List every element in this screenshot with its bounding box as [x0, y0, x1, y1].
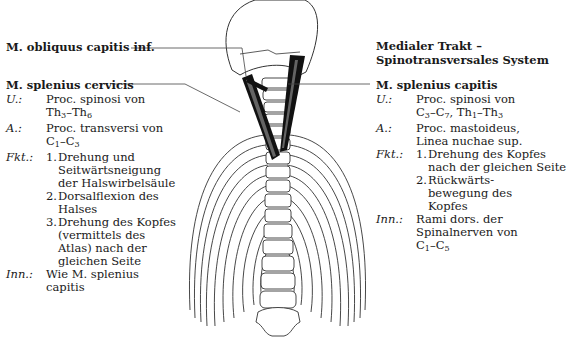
innervation-row: Inn.: Wie M. spleniuscapitis	[6, 268, 186, 294]
function-3-line: gleichen Seite	[58, 254, 141, 268]
origin-range: C3–C7, Th1–Th3	[416, 105, 503, 119]
function-row: Fkt.: 1.Drehung des Kopfesnach der gleic…	[376, 148, 551, 213]
label-splenius-cervicis: M. splenius cervicis	[6, 78, 134, 92]
origin-key: U.:	[376, 93, 416, 122]
section-header-line1: Medialer Trakt –	[376, 39, 482, 53]
function-2-number: 2.	[416, 174, 428, 213]
function-1-line: Seitwärtsneigung	[58, 163, 161, 177]
function-2-line: Kopfes	[428, 199, 468, 213]
innervation-text: Wie M. splenius	[46, 267, 139, 281]
origin-text: Proc. spinosi von	[46, 92, 145, 106]
function-key: Fkt.:	[376, 148, 416, 213]
insertion-key: A.:	[6, 122, 46, 151]
insertion-key: A.:	[376, 122, 416, 148]
function-1-number: 1.	[46, 151, 58, 190]
origin-row: U.: Proc. spinosi vonTh3–Th6	[6, 93, 186, 122]
label-obliquus-capitis-inf: M. obliquus capitis inf.	[6, 40, 155, 54]
section-header-line2: Spinotransversales System	[376, 53, 549, 67]
innervation-range: C1–C5	[416, 238, 450, 252]
splenius-cervicis-description: U.: Proc. spinosi vonTh3–Th6 A.: Proc. t…	[6, 93, 186, 294]
function-2-line: Rückwärts-	[428, 173, 494, 187]
function-1-number: 1.	[416, 148, 428, 174]
insertion-text: Proc. transversi von	[46, 121, 163, 135]
function-row: Fkt.: 1.Drehung undSeitwärtsneigungder H…	[6, 151, 186, 268]
innervation-text: Rami dors. der	[416, 212, 503, 226]
label-splenius-capitis: M. splenius capitis	[376, 78, 498, 92]
function-2-number: 2.	[46, 190, 58, 216]
innervation-row: Inn.: Rami dors. derSpinalnerven vonC1–C…	[376, 213, 551, 255]
function-1-line: nach der gleichen Seite	[428, 160, 566, 174]
insertion-text: Proc. mastoideus,	[416, 121, 520, 135]
origin-row: U.: Proc. spinosi vonC3–C7, Th1–Th3	[376, 93, 551, 122]
innervation-key: Inn.:	[6, 268, 46, 294]
function-2-line: Dorsalflexion des	[58, 189, 159, 203]
insertion-row: A.: Proc. mastoideus,Linea nuchae sup.	[376, 122, 551, 148]
origin-range: Th3–Th6	[46, 105, 92, 119]
function-1-line: Drehung und	[58, 150, 135, 164]
innervation-text: capitis	[46, 280, 85, 294]
splenius-capitis-description: U.: Proc. spinosi vonC3–C7, Th1–Th3 A.: …	[376, 93, 551, 255]
innervation-key: Inn.:	[376, 213, 416, 255]
insertion-range: C1–C3	[46, 134, 80, 148]
function-1-line: der Halswirbelsäule	[58, 176, 175, 190]
origin-key: U.:	[6, 93, 46, 122]
insertion-row: A.: Proc. transversi vonC1–C3	[6, 122, 186, 151]
function-3-number: 3.	[46, 216, 58, 268]
function-3-line: (vermittels des	[58, 228, 145, 242]
function-2-line: Halses	[58, 202, 97, 216]
function-1-line: Drehung des Kopfes	[428, 147, 546, 161]
insertion-text: Linea nuchae sup.	[416, 134, 522, 148]
function-3-line: Atlas) nach der	[58, 241, 147, 255]
function-key: Fkt.:	[6, 151, 46, 268]
function-2-line: bewegung des	[428, 186, 512, 200]
function-3-line: Drehung des Kopfes	[58, 215, 176, 229]
origin-text: Proc. spinosi von	[416, 92, 515, 106]
innervation-text: Spinalnerven von	[416, 225, 518, 239]
